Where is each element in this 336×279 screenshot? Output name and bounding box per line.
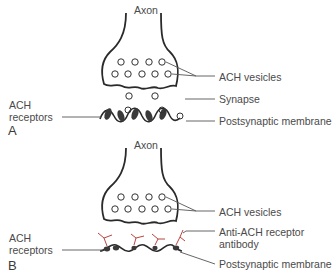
- panel-a: [62, 13, 215, 123]
- axon-label-b: Axon: [134, 139, 158, 151]
- anti-ach-antibody-label-line1: Anti-ACH receptor: [219, 226, 304, 238]
- axon-terminal-a: [102, 13, 178, 89]
- ach-receptors-label-a-line2: receptors: [9, 111, 53, 123]
- ach-vesicles-b: [112, 194, 171, 212]
- synapse-label: Synapse: [219, 93, 260, 105]
- ach-receptors-label-b-line2: receptors: [9, 244, 53, 256]
- axon-label-a: Axon: [134, 4, 158, 16]
- anti-ach-antibody-label-line2: antibody: [219, 238, 259, 250]
- axon-terminal-b: [102, 148, 178, 224]
- panel-letter-b: B: [8, 258, 17, 273]
- ach-receptors-b: [104, 246, 179, 252]
- leader-lines-b: [62, 197, 215, 264]
- panel-b: [62, 148, 215, 264]
- ach-receptors-label-b-line1: ACH: [9, 232, 31, 244]
- ach-vesicles-label-a: ACH vesicles: [219, 71, 281, 83]
- ach-receptors-label-a-line1: ACH: [9, 99, 31, 111]
- ach-vesicles-a: [112, 59, 171, 99]
- postsynaptic-membrane-a: [100, 107, 183, 123]
- ach-vesicles-label-b: ACH vesicles: [219, 206, 281, 218]
- postsynaptic-membrane-label-a: Postsynaptic membrane: [219, 115, 332, 127]
- postsynaptic-membrane-b: [100, 245, 182, 252]
- panel-letter-a: A: [8, 123, 17, 138]
- anti-ach-antibodies: [98, 230, 185, 246]
- postsynaptic-membrane-label-b: Postsynaptic membrane: [219, 258, 332, 270]
